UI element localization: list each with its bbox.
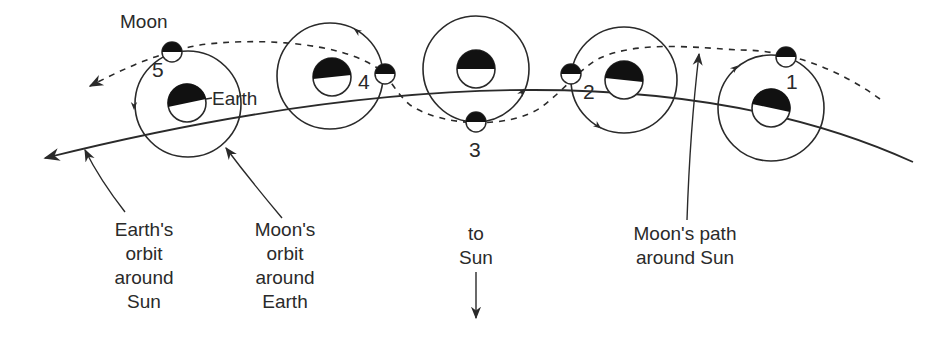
position-number-3: 3 — [469, 138, 481, 162]
moons-orbit-leader-arrow — [226, 148, 282, 218]
position-number-1: 1 — [786, 70, 798, 94]
position-1 — [718, 47, 824, 161]
earths-orbit-leader-arrow — [85, 150, 125, 212]
position-2 — [561, 27, 677, 133]
moon-orbit-diagram: Moon Earth 1 2 3 4 5 Earth's orbit aroun… — [0, 0, 943, 343]
moons-orbit-label: Moon's orbit around Earth — [245, 218, 325, 314]
to-sun-label: to Sun — [446, 222, 506, 270]
moon-label: Moon — [120, 10, 168, 34]
position-number-4: 4 — [358, 70, 370, 94]
earths-orbit-label: Earth's orbit around Sun — [104, 218, 184, 314]
earth-day-side — [457, 50, 495, 69]
moons-path-label: Moon's path around Sun — [610, 222, 760, 270]
position-3 — [423, 16, 529, 132]
earth-label: Earth — [212, 87, 257, 111]
position-number-2: 2 — [583, 80, 595, 104]
position-number-5: 5 — [152, 58, 164, 82]
position-4 — [277, 23, 395, 129]
moons-path-leader-arrow — [687, 54, 699, 220]
